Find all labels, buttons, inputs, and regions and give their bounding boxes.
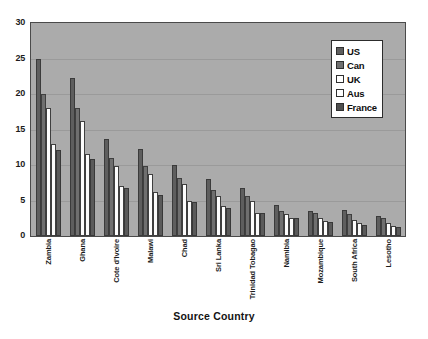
bar-group [167,23,201,236]
bar-chart: 051015202530 ZambiaGhanaCote d'IvoireMal… [0,0,428,339]
bar [158,195,163,236]
legend-swatch-icon [336,89,344,97]
bar [226,208,231,236]
x-axis-tick-label-cell: Malawi [133,239,167,301]
legend-swatch-icon [336,47,344,55]
x-axis-tick-label: Mozambique [316,239,325,283]
legend-item: US [336,44,377,58]
legend-swatch-icon [336,103,344,111]
x-axis-tick-label-cell: Chad [167,239,201,301]
bar-group [269,23,303,236]
bar [294,218,299,236]
y-axis-tick-label: 30 [15,17,25,27]
x-axis-tick-label-cell: Zambia [31,239,65,301]
bar [396,227,401,236]
bar-group [31,23,65,236]
x-axis-tick-label-cell: Cote d'Ivoire [99,239,133,301]
y-axis-tick-label: 20 [15,88,25,98]
x-axis-tick-label: South Africa [350,239,359,282]
x-axis-tick-label: Zambia [44,239,53,265]
y-axis: 051015202530 [0,22,30,237]
y-axis-tick-label: 25 [15,53,25,63]
bar-group [133,23,167,236]
x-axis-tick-label: Malawi [146,239,155,263]
x-axis-tick-label-cell: Trinidad Tobagao [235,239,269,301]
legend-item: UK [336,72,377,86]
y-axis-tick-label: 0 [20,230,25,240]
y-axis-tick-label: 5 [20,195,25,205]
bar [56,150,61,236]
bar [124,188,129,236]
x-axis-tick-labels: ZambiaGhanaCote d'IvoireMalawiChadSri La… [31,239,405,301]
bar [90,159,95,236]
bar [192,202,197,236]
bar [362,225,367,236]
x-axis-title: Source Country [0,310,428,322]
x-axis-tick-label-cell: Mozambique [303,239,337,301]
x-axis-tick-label-cell: South Africa [337,239,371,301]
x-axis-tick-label-cell: Lesotho [371,239,405,301]
legend: USCanUKAusFrance [331,40,383,118]
legend-item-label: US [347,46,360,57]
bar [328,222,333,236]
x-axis-tick-label: Namibia [282,239,291,267]
x-axis-tick-label-cell: Ghana [65,239,99,301]
x-axis-tick-label-cell: Namibia [269,239,303,301]
x-axis-tick-label: Chad [180,239,189,257]
bar-group [201,23,235,236]
x-axis-tick-label: Sri Lanka [214,239,223,272]
x-axis-tick-label: Trinidad Tobagao [248,239,257,299]
legend-swatch-icon [336,75,344,83]
bar-group [99,23,133,236]
legend-item-label: Aus [347,88,364,99]
legend-item-label: France [347,102,377,113]
bar-group [235,23,269,236]
legend-item-label: UK [347,74,360,85]
y-axis-tick-label: 10 [15,159,25,169]
x-axis-tick-label-cell: Sri Lanka [201,239,235,301]
x-axis-tick-label: Cote d'Ivoire [112,239,121,283]
bar-group [65,23,99,236]
x-axis-tick-label: Ghana [78,239,87,262]
bar [260,213,265,236]
legend-item: Aus [336,86,377,100]
legend-item: Can [336,58,377,72]
legend-item: France [336,100,377,114]
x-axis-tick-label: Lesotho [384,239,393,267]
y-axis-tick-label: 15 [15,124,25,134]
legend-item-label: Can [347,60,364,71]
legend-swatch-icon [336,61,344,69]
